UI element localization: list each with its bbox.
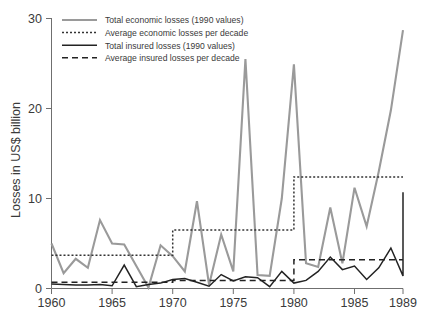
x-tick-label-1980: 1980 — [280, 296, 308, 310]
y-axis-title-group: Losses in US$ billion — [9, 102, 23, 218]
y-tick-label-30: 30 — [28, 12, 42, 26]
y-axis-title: Losses in US$ billion — [9, 102, 23, 218]
x-tick-marks — [52, 289, 404, 295]
x-tick-label-1960: 1960 — [38, 296, 66, 310]
y-tick-label-10: 10 — [28, 192, 42, 206]
legend-label-economic_average: Average economic losses per decade — [105, 28, 248, 38]
series-economic_total — [52, 30, 404, 287]
y-tick-marks — [46, 19, 52, 289]
series-layer — [52, 30, 404, 287]
chart-legend: Total economic losses (1990 values)Avera… — [62, 15, 248, 63]
x-tick-label-1989: 1989 — [389, 296, 417, 310]
legend-label-economic_total: Total economic losses (1990 values) — [105, 15, 244, 25]
y-tick-label-0: 0 — [35, 282, 42, 296]
x-tick-label-1985: 1985 — [341, 296, 369, 310]
legend-label-insured_average: Average insured losses per decade — [105, 53, 240, 63]
x-tick-labels: 1960196519701975198019851989 — [38, 296, 417, 310]
y-tick-labels: 30 20 10 0 — [28, 12, 42, 296]
y-tick-label-20: 20 — [28, 102, 42, 116]
series-insured_average — [52, 260, 404, 283]
losses-line-chart: Losses in US$ billion 30 20 10 0 1960196… — [0, 0, 425, 330]
series-insured_total — [52, 192, 404, 287]
chart-container: Losses in US$ billion 30 20 10 0 1960196… — [0, 0, 425, 330]
x-tick-label-1965: 1965 — [98, 296, 126, 310]
x-tick-label-1975: 1975 — [219, 296, 247, 310]
x-tick-label-1970: 1970 — [159, 296, 187, 310]
legend-label-insured_total: Total insured losses (1990 values) — [105, 41, 235, 51]
